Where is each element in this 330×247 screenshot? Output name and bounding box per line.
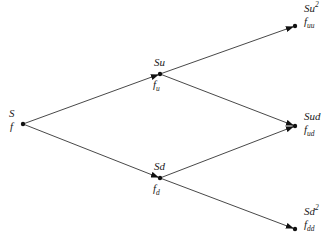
- edge-s-to-sd: [23, 124, 158, 177]
- price-label-sdd: Sd2: [304, 203, 319, 217]
- node-sd: [158, 176, 162, 180]
- edge-s-to-su: [23, 75, 158, 124]
- value-label-suu: fuu: [304, 15, 315, 30]
- value-label-s: f: [10, 120, 15, 132]
- node-sud: [293, 124, 297, 128]
- value-label-su: fu: [153, 78, 160, 93]
- tree-canvas: SfSufuSdfdSu2fuuSudfudSd2fdd: [0, 0, 330, 247]
- node-su: [158, 72, 162, 76]
- node-suu: [293, 24, 297, 28]
- price-label-su: Su: [154, 56, 166, 68]
- price-label-suu: Su2: [304, 0, 319, 14]
- price-label-sd: Sd: [154, 160, 166, 172]
- node-sdd: [293, 227, 297, 231]
- edge-su-to-suu: [160, 27, 293, 74]
- price-label-sud: Sud: [304, 110, 321, 122]
- node-s: [21, 122, 25, 126]
- value-label-sud: fud: [304, 123, 315, 138]
- value-label-sd: fd: [153, 182, 160, 197]
- binomial-tree-diagram: SfSufuSdfdSu2fuuSudfudSd2fdd: [0, 0, 330, 247]
- edge-sd-to-sdd: [160, 178, 293, 228]
- value-label-sdd: fdd: [304, 218, 315, 233]
- price-label-s: S: [9, 107, 15, 119]
- edge-sd-to-sud: [160, 127, 293, 178]
- edge-su-to-sud: [160, 74, 293, 125]
